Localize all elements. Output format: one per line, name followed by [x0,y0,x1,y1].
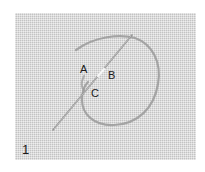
needle-highlight [54,36,131,129]
stitch-illustration [0,0,205,172]
thread-loop [76,36,159,125]
point-label-a: A [80,64,87,75]
step-number: 1 [22,143,29,156]
needle-gap [98,69,104,76]
point-label-b: B [108,70,115,81]
point-label-c: C [91,88,99,99]
